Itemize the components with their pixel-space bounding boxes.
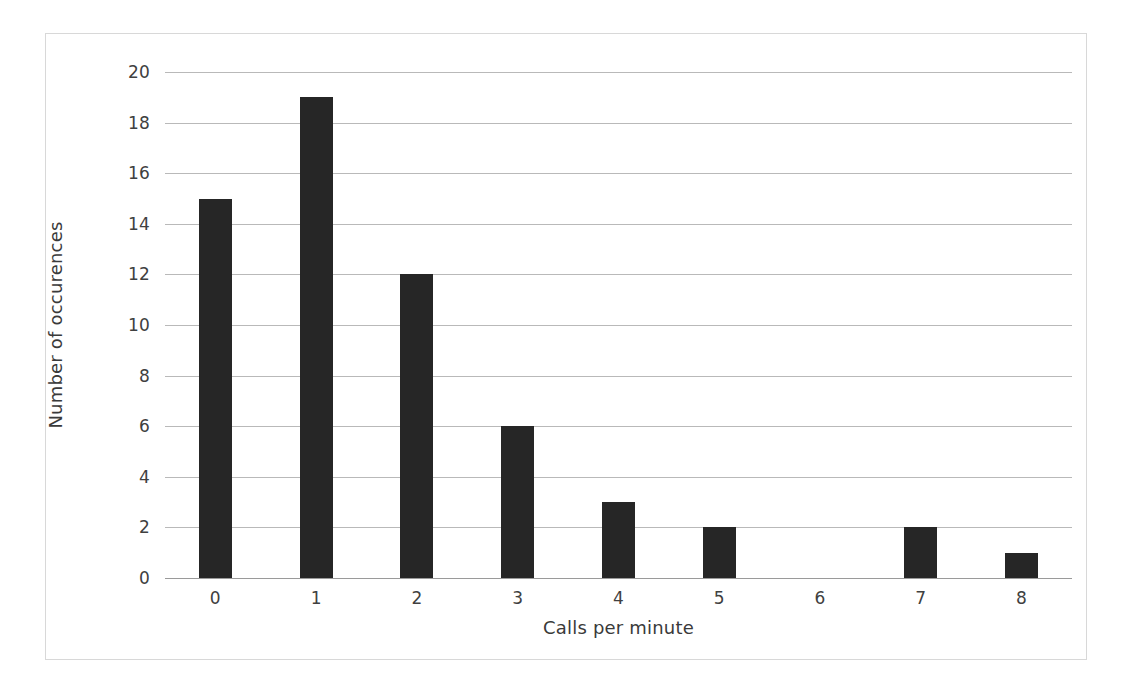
x-axis-title: Calls per minute <box>165 617 1072 638</box>
bar <box>501 426 534 578</box>
x-tick-label: 8 <box>1016 588 1027 608</box>
y-tick-label: 6 <box>139 416 150 436</box>
bar <box>300 97 333 578</box>
x-tick-label: 0 <box>210 588 221 608</box>
x-axis-baseline <box>165 578 1072 579</box>
x-tick-label: 6 <box>815 588 826 608</box>
y-tick-label: 2 <box>139 517 150 537</box>
bar <box>400 274 433 578</box>
y-tick-label: 4 <box>139 467 150 487</box>
x-tick-label: 5 <box>714 588 725 608</box>
y-tick-label: 14 <box>128 214 150 234</box>
x-tick-label: 2 <box>411 588 422 608</box>
y-tick-label: 10 <box>128 315 150 335</box>
bar <box>904 527 937 578</box>
bar <box>703 527 736 578</box>
x-tick-label: 7 <box>915 588 926 608</box>
bar <box>1005 553 1038 578</box>
y-tick-label: 0 <box>139 568 150 588</box>
y-tick-label: 16 <box>128 163 150 183</box>
y-tick-label: 20 <box>128 62 150 82</box>
x-tick-label: 1 <box>311 588 322 608</box>
y-axis-title: Number of occurences <box>45 72 73 578</box>
y-tick-label: 8 <box>139 366 150 386</box>
bar-chart: 02468101214161820 012345678 Calls per mi… <box>0 0 1127 694</box>
x-tick-label: 4 <box>613 588 624 608</box>
x-tick-label: 3 <box>512 588 523 608</box>
bar-series <box>165 72 1072 578</box>
bar <box>199 199 232 579</box>
x-axis-tick-labels: 012345678 <box>165 588 1072 616</box>
bar <box>602 502 635 578</box>
y-tick-label: 12 <box>128 264 150 284</box>
y-tick-label: 18 <box>128 113 150 133</box>
y-axis-tick-labels: 02468101214161820 <box>108 72 150 578</box>
